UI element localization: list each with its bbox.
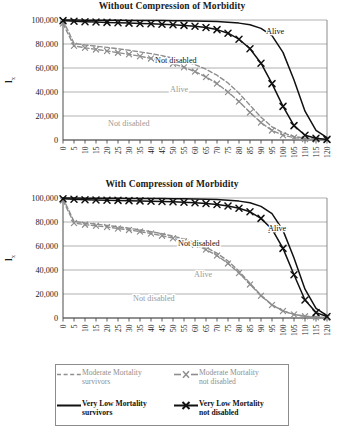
x-axis-tick-label: 35 — [136, 146, 145, 154]
x-axis-tick-label: 110 — [301, 324, 310, 335]
plot-area-1: 100,00080,00060,00040,00020,000005101520… — [0, 12, 344, 162]
x-axis-tick-label: 85 — [246, 324, 255, 332]
x-axis-tick-label: 115 — [312, 324, 321, 335]
y-axis-label-subscript: x — [9, 76, 16, 80]
x-axis-tick-label: 15 — [92, 324, 101, 332]
y-axis-tick-label: 80,000 — [35, 40, 58, 49]
x-axis-tick-label: 95 — [268, 324, 277, 332]
x-axis-tick-label: 45 — [158, 324, 167, 332]
x-axis-tick-label: 115 — [312, 146, 321, 157]
x-axis-tick-label: 30 — [125, 324, 134, 332]
y-axis-tick-label: 100,000 — [31, 16, 58, 25]
x-axis-tick-label: 0 — [59, 146, 68, 150]
chart-svg-2: 100,00080,00060,00040,00020,000005101520… — [0, 190, 344, 358]
y-axis-tick-label: 20,000 — [35, 112, 58, 121]
x-axis-tick-label: 80 — [235, 146, 244, 154]
legend-key-solid-black — [56, 401, 82, 410]
y-axis-tick-label: 0 — [54, 314, 58, 323]
legend-key-dashed-gray-x — [173, 370, 199, 379]
x-axis-tick-label: 55 — [180, 146, 189, 154]
x-axis-tick-label: 20 — [103, 324, 112, 332]
x-axis-tick-label: 70 — [213, 146, 222, 154]
x-axis-tick-label: 90 — [257, 324, 266, 332]
series-line — [63, 24, 327, 140]
x-axis-tick-label: 30 — [125, 146, 134, 154]
x-axis-tick-label: 85 — [246, 146, 255, 154]
x-axis-tick-label: 120 — [323, 146, 332, 158]
chart-title-1: Without Compression of Morbidity — [0, 0, 344, 12]
legend-label-moderate-survivors: Moderate Mortality survivors — [82, 369, 173, 386]
annotation-not-disabled-black: Not disabled — [178, 239, 220, 248]
legend-label-verylow-survivors: Very Low Mortality survivors — [82, 400, 173, 417]
x-axis-tick-label: 5 — [70, 324, 79, 328]
y-axis-tick-label: 40,000 — [35, 266, 58, 275]
x-axis-tick-label: 5 — [70, 146, 79, 150]
series-markers — [60, 21, 329, 142]
legend-label-moderate-not-disabled: Moderate Mortality not disabled — [199, 369, 290, 386]
x-axis-tick-label: 70 — [213, 324, 222, 332]
legend-line2: survivors — [82, 408, 112, 417]
x-axis-tick-label: 75 — [224, 324, 233, 332]
x-axis-tick-label: 10 — [81, 324, 90, 332]
legend-line2: survivors — [82, 377, 110, 386]
x-axis-tick-label: 80 — [235, 324, 244, 332]
y-axis-tick-label: 0 — [54, 136, 58, 145]
legend-key-dashed-gray — [56, 370, 82, 379]
annotation-alive-black: Alive — [266, 27, 285, 36]
series-markers — [60, 18, 330, 143]
x-axis-tick-label: 60 — [191, 324, 200, 332]
x-axis-tick-label: 100 — [279, 146, 288, 158]
x-axis-tick-label: 45 — [158, 146, 167, 154]
y-axis-tick-label: 60,000 — [35, 242, 58, 251]
x-axis-tick-label: 105 — [290, 324, 299, 336]
x-axis-tick-label: 10 — [81, 146, 90, 154]
x-axis-tick-label: 35 — [136, 324, 145, 332]
annotation-alive-gray: Alive — [170, 85, 189, 94]
legend-item-moderate-survivors: Moderate Mortality survivors — [56, 365, 173, 396]
y-axis-tick-label: 40,000 — [35, 88, 58, 97]
legend-line2: not disabled — [199, 408, 238, 417]
x-axis-tick-label: 120 — [323, 324, 332, 336]
annotation-not-disabled-gray: Not disabled — [133, 294, 175, 303]
y-axis-label-subscript: x — [9, 254, 16, 258]
legend-item-verylow-not-disabled: Very Low Mortality not disabled — [173, 396, 290, 427]
x-axis-tick-label: 75 — [224, 146, 233, 154]
legend-item-moderate-not-disabled: Moderate Mortality not disabled — [173, 365, 290, 396]
x-axis-tick-label: 50 — [169, 324, 178, 332]
x-axis-tick-label: 0 — [59, 324, 68, 328]
x-axis-tick-label: 95 — [268, 146, 277, 154]
series-line — [63, 20, 327, 140]
x-axis-tick-label: 90 — [257, 146, 266, 154]
series-markers — [60, 196, 330, 320]
chart-title-2: With Compression of Morbidity — [0, 178, 344, 190]
y-axis-label: lx — [4, 76, 16, 83]
annotation-not-disabled-gray: Not disabled — [108, 119, 150, 128]
panel-with-compression: With Compression of Morbidity 100,00080,… — [0, 178, 344, 356]
x-axis-tick-label: 60 — [191, 146, 200, 154]
x-axis-tick-label: 65 — [202, 146, 211, 154]
chart-svg-1: 100,00080,00060,00040,00020,000005101520… — [0, 12, 344, 180]
series-line — [63, 198, 327, 316]
y-axis-tick-label: 60,000 — [35, 64, 58, 73]
y-axis-tick-label: 20,000 — [35, 290, 58, 299]
chart-legend: Moderate Mortality survivors Moderate Mo… — [55, 364, 289, 426]
x-axis-tick-label: 100 — [279, 324, 288, 336]
series-markers — [60, 198, 329, 320]
x-axis-tick-label: 20 — [103, 146, 112, 154]
x-axis-tick-label: 40 — [147, 324, 156, 332]
legend-item-verylow-survivors: Very Low Mortality survivors — [56, 396, 173, 427]
x-axis-tick-label: 55 — [180, 324, 189, 332]
annotation-alive-gray: Alive — [194, 270, 213, 279]
x-axis-tick-label: 15 — [92, 146, 101, 154]
annotation-not-disabled-black: Not disabled — [155, 56, 197, 65]
y-axis-tick-label: 80,000 — [35, 218, 58, 227]
x-axis-tick-label: 25 — [114, 146, 123, 154]
legend-label-verylow-not-disabled: Very Low Mortality not disabled — [199, 400, 290, 417]
y-axis-tick-label: 100,000 — [31, 194, 58, 203]
legend-line2: not disabled — [199, 377, 236, 386]
series-line — [63, 20, 327, 138]
legend-key-solid-black-x — [173, 401, 199, 410]
x-axis-tick-label: 40 — [147, 146, 156, 154]
annotation-alive-black: Alive — [268, 224, 287, 233]
x-axis-tick-label: 25 — [114, 324, 123, 332]
